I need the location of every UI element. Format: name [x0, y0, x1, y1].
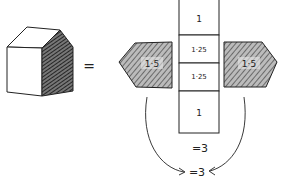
column-sum-label: =3	[192, 142, 208, 155]
pentagons-sum-label: =3	[189, 166, 205, 179]
column-cell-2-label: 1·25	[191, 46, 207, 54]
right-arrowhead-icon	[209, 167, 215, 175]
house-solid	[7, 27, 73, 96]
right-pentagon: 1·5	[224, 42, 277, 87]
column-cell-3-label: 1·25	[191, 73, 207, 81]
left-pentagon: 1·5	[119, 42, 172, 88]
column-cell-4-label: 1	[196, 108, 202, 118]
house-front-face	[7, 47, 42, 96]
equals-sign: =	[83, 58, 95, 74]
left-pentagon-label: 1·5	[145, 59, 159, 69]
column-cell-1-label: 1	[196, 14, 202, 24]
right-pentagon-label: 1·5	[242, 59, 256, 69]
diagram-canvas: = 1·5 1·5 1 1·25 1·25 1 =3 =3	[0, 0, 281, 187]
left-arrow	[146, 97, 184, 172]
